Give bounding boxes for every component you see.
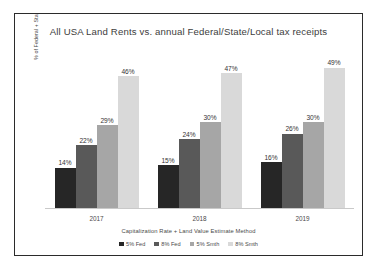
bar[interactable]: 46% xyxy=(118,76,139,208)
legend-swatch-icon xyxy=(228,242,233,247)
bar-value-label: 24% xyxy=(182,131,195,138)
bar-group: 14%22%29%46% xyxy=(49,42,145,208)
bar-slot: 29% xyxy=(97,42,118,208)
x-axis-tick-label: 2017 xyxy=(49,215,145,222)
bar[interactable]: 49% xyxy=(324,68,345,208)
bar[interactable]: 30% xyxy=(200,122,221,208)
bar-slot: 22% xyxy=(76,42,97,208)
bar-value-label: 30% xyxy=(203,114,216,121)
bar-group: 15%24%30%47% xyxy=(152,42,248,208)
bar-value-label: 49% xyxy=(327,59,340,66)
legend-label: 8% Fed xyxy=(161,241,180,247)
bar-group: 16%26%30%49% xyxy=(255,42,351,208)
chart-legend: 5% Fed8% Fed5% Smth8% Smth xyxy=(15,241,362,247)
bar[interactable]: 24% xyxy=(179,139,200,208)
x-axis-tick-label: 2018 xyxy=(152,215,248,222)
y-axis-label: % of Federal + State + Local Tax Receipt… xyxy=(33,13,43,60)
bar-slot: 26% xyxy=(282,42,303,208)
bar-slot: 46% xyxy=(118,42,139,208)
bar-slot: 16% xyxy=(261,42,282,208)
legend-label: 5% Fed xyxy=(126,241,145,247)
bar-slot: 30% xyxy=(303,42,324,208)
plot-area: 14%22%29%46%15%24%30%47%16%26%30%49% xyxy=(45,42,354,209)
legend-item[interactable]: 5% Smth xyxy=(190,241,220,247)
legend-swatch-icon xyxy=(119,242,124,247)
bar[interactable]: 15% xyxy=(158,165,179,208)
legend-swatch-icon xyxy=(190,242,195,247)
bar-groups: 14%22%29%46%15%24%30%47%16%26%30%49% xyxy=(45,42,354,208)
bar[interactable]: 47% xyxy=(221,73,242,208)
legend-item[interactable]: 8% Fed xyxy=(154,241,180,247)
bar-slot: 30% xyxy=(200,42,221,208)
bar[interactable]: 16% xyxy=(261,162,282,208)
bar-value-label: 26% xyxy=(285,125,298,132)
bar-slot: 47% xyxy=(221,42,242,208)
bar[interactable]: 26% xyxy=(282,134,303,208)
bar-value-label: 30% xyxy=(306,114,319,121)
bar-value-label: 46% xyxy=(121,68,134,75)
legend-swatch-icon xyxy=(154,242,159,247)
legend-item[interactable]: 8% Smth xyxy=(228,241,258,247)
legend-label: 5% Smth xyxy=(197,241,220,247)
x-axis-tick-labels: 201720182019 xyxy=(45,215,354,222)
chart-frame: All USA Land Rents vs. annual Federal/St… xyxy=(14,13,363,256)
legend-item[interactable]: 5% Fed xyxy=(119,241,145,247)
legend-label: 8% Smth xyxy=(235,241,258,247)
bar-value-label: 14% xyxy=(58,159,71,166)
x-axis-line xyxy=(45,208,354,209)
bar-value-label: 22% xyxy=(79,137,92,144)
bar-value-label: 29% xyxy=(100,117,113,124)
bar-slot: 15% xyxy=(158,42,179,208)
bar-slot: 14% xyxy=(55,42,76,208)
bar-slot: 49% xyxy=(324,42,345,208)
bar-value-label: 16% xyxy=(264,154,277,161)
bar-value-label: 47% xyxy=(224,65,237,72)
bar[interactable]: 22% xyxy=(76,145,97,208)
bar[interactable]: 30% xyxy=(303,122,324,208)
chart-title: All USA Land Rents vs. annual Federal/St… xyxy=(15,26,362,37)
bar-value-label: 15% xyxy=(161,157,174,164)
x-axis-title: Capitalization Rate + Land Value Estimat… xyxy=(15,228,362,234)
x-axis-tick-label: 2019 xyxy=(255,215,351,222)
bar[interactable]: 14% xyxy=(55,168,76,208)
bar[interactable]: 29% xyxy=(97,125,118,208)
bar-slot: 24% xyxy=(179,42,200,208)
